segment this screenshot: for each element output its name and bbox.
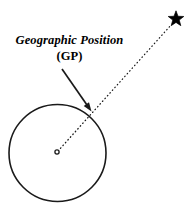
earth-center-dot [55, 150, 59, 154]
gp-annotation-line2: (GP) [0, 49, 139, 64]
gp-annotation-label: Geographic Position (GP) [0, 33, 139, 64]
gp-annotation-line1: Geographic Position [0, 33, 139, 48]
gp-leader-arrow-head [84, 102, 92, 111]
gp-leader-arrow-shaft [62, 69, 88, 106]
celestial-body-star [168, 11, 184, 26]
geographic-position-diagram: Geographic Position (GP) [0, 0, 195, 214]
